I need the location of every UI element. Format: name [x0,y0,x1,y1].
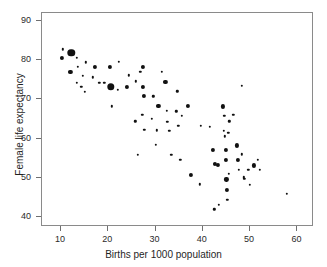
y-axis-tick-mark [36,138,41,139]
data-point [213,208,215,210]
data-point [225,188,229,192]
x-axis-tick-label: 20 [94,235,120,244]
data-point [177,125,179,127]
data-point [77,66,79,68]
plot-area [41,12,313,226]
data-point [211,148,215,152]
data-points-layer [42,13,312,225]
data-point [218,203,220,205]
data-point [235,143,239,147]
y-axis-tick-label: 40 [7,212,31,221]
data-point [243,178,245,180]
data-point [68,70,72,74]
data-point [179,159,181,161]
data-point [180,115,182,117]
data-point [107,83,114,90]
data-point [134,120,136,122]
data-point [224,177,228,181]
x-axis-tick-label: 30 [142,235,168,244]
data-point [139,71,141,73]
data-point [152,95,154,97]
y-axis-tick-mark [36,98,41,99]
data-point [141,85,145,89]
x-axis-tick-label: 10 [47,235,73,244]
data-point [221,104,225,108]
data-point [252,163,256,167]
x-axis-tick-mark [296,226,297,231]
data-point [248,183,250,185]
data-point [137,154,139,156]
data-point [222,130,224,132]
data-point [128,74,130,76]
data-point [108,65,112,69]
top-edge-artifact [60,1,180,6]
data-point [151,117,153,119]
x-axis-tick-mark [202,226,203,231]
data-point [176,90,178,92]
x-axis-tick-mark [249,226,250,231]
data-point [224,158,228,162]
data-point [60,56,64,60]
data-point [143,129,145,131]
data-point [247,168,249,170]
data-point [76,81,78,83]
data-point [188,173,192,177]
data-point [166,110,168,112]
data-point [170,154,172,156]
y-axis-tick-label: 90 [7,15,31,24]
data-point [141,113,143,115]
data-point [175,110,177,112]
data-point [85,61,87,63]
data-point [116,89,118,91]
y-axis-tick-mark [36,20,41,21]
data-point [111,105,113,107]
data-point [156,129,158,131]
data-point [103,82,105,84]
data-point [258,169,260,171]
y-axis-tick-mark [36,216,41,217]
data-point [226,198,228,200]
data-point [238,169,240,171]
data-point [186,104,190,108]
data-point [117,61,119,63]
x-axis-tick-mark [107,226,108,231]
data-point [62,48,64,50]
data-point [75,57,77,59]
data-point [240,85,242,87]
data-point [166,121,168,123]
y-axis-tick-mark [36,177,41,178]
x-axis-tick-label: 50 [236,235,262,244]
data-point [93,65,97,69]
data-point [92,76,94,78]
data-point [257,159,259,161]
data-point [81,75,83,77]
data-point [168,130,170,132]
data-point [286,193,288,195]
y-axis-tick-mark [36,59,41,60]
data-point [232,113,234,115]
data-point [200,125,202,127]
data-point [156,104,160,108]
y-axis-title: Female life expectancy [14,50,25,200]
data-point [141,65,145,69]
data-point [216,162,220,166]
x-axis-tick-mark [155,226,156,231]
data-point [83,90,85,92]
data-point [223,135,225,137]
data-point [228,173,230,175]
data-point [198,183,200,185]
data-point [163,80,167,84]
data-point [68,49,75,56]
x-axis-tick-label: 60 [283,235,309,244]
data-point [142,94,146,98]
data-point [209,126,211,128]
data-point [223,148,227,152]
data-point [223,115,225,117]
data-point [228,120,230,122]
x-axis-tick-mark [60,226,61,231]
x-axis-tick-label: 40 [189,235,215,244]
data-point [80,86,82,88]
data-point [160,71,162,73]
data-point [241,153,243,155]
x-axis-title: Births per 1000 population [0,249,327,260]
